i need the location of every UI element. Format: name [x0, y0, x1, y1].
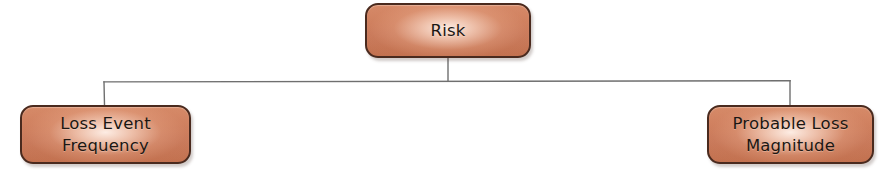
connector-drop-loss-event-frequency [104, 82, 105, 105]
node-risk[interactable]: Risk [365, 3, 531, 58]
node-risk-label: Risk [430, 20, 465, 41]
node-loss-event-frequency[interactable]: Loss Event Frequency [20, 105, 191, 164]
node-probable-loss-magnitude-label: Probable Loss Magnitude [732, 113, 848, 155]
diagram-canvas: Risk Loss Event Frequency Probable Loss … [0, 0, 884, 179]
node-loss-event-frequency-label: Loss Event Frequency [60, 113, 151, 155]
connector-horizontal-bus [104, 81, 790, 82]
node-probable-loss-magnitude[interactable]: Probable Loss Magnitude [707, 105, 874, 164]
